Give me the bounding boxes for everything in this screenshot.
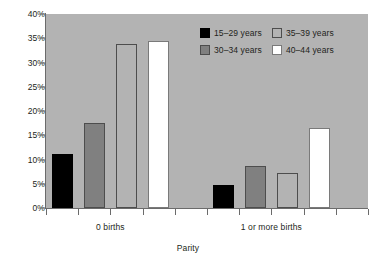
legend-label: 35–39 years xyxy=(286,28,334,38)
bar-chart: 0%5%10%15%20%25%30%35%40% 0 births1 or m… xyxy=(0,0,376,269)
bar xyxy=(245,166,266,208)
x-tick-mark xyxy=(368,209,369,215)
x-tick-mark xyxy=(336,209,337,215)
y-tick-mark xyxy=(40,86,45,87)
x-tick-mark xyxy=(143,209,144,215)
x-tick-mark xyxy=(46,209,47,215)
y-tick-mark xyxy=(40,62,45,63)
legend-swatch-icon xyxy=(272,28,282,38)
y-tick-mark xyxy=(40,38,45,39)
bar xyxy=(52,154,73,208)
y-tick-mark xyxy=(40,208,45,209)
y-tick-mark xyxy=(40,111,45,112)
legend-entry: 15–29 years xyxy=(200,28,262,38)
y-tick-label: 0% xyxy=(5,203,45,213)
y-tick-label: 15% xyxy=(5,130,45,140)
y-tick-mark xyxy=(40,183,45,184)
x-tick-mark xyxy=(207,209,208,215)
bar xyxy=(84,123,105,208)
legend-entry: 40–44 years xyxy=(272,45,334,55)
bar xyxy=(213,185,234,208)
x-tick-mark xyxy=(175,209,176,215)
legend-swatch-icon xyxy=(200,28,210,38)
legend-swatch-icon xyxy=(200,45,210,55)
x-tick-mark xyxy=(271,209,272,215)
y-tick-label: 10% xyxy=(5,155,45,165)
bar xyxy=(116,44,137,208)
legend-label: 40–44 years xyxy=(286,45,334,55)
y-tick-label: 35% xyxy=(5,33,45,43)
y-tick-label: 25% xyxy=(5,82,45,92)
bar xyxy=(277,173,298,208)
x-group-label: 1 or more births xyxy=(241,222,302,232)
y-tick-label: 20% xyxy=(5,106,45,116)
y-tick-mark xyxy=(40,14,45,15)
x-tick-mark xyxy=(304,209,305,215)
x-axis-title: Parity xyxy=(0,243,376,253)
legend-entry: 30–34 years xyxy=(200,45,262,55)
x-tick-mark xyxy=(239,209,240,215)
x-group-label: 0 births xyxy=(96,222,125,232)
bar xyxy=(148,41,169,208)
y-tick-label: 40% xyxy=(5,9,45,19)
legend-entry: 35–39 years xyxy=(272,28,334,38)
legend-swatch-icon xyxy=(272,45,282,55)
x-tick-mark xyxy=(78,209,79,215)
y-tick-mark xyxy=(40,159,45,160)
chart-legend: 15–29 years35–39 years30–34 years40–44 y… xyxy=(200,24,334,58)
bar xyxy=(309,128,330,209)
x-tick-mark xyxy=(110,209,111,215)
legend-label: 15–29 years xyxy=(214,28,262,38)
y-tick-label: 30% xyxy=(5,58,45,68)
y-tick-label: 5% xyxy=(5,179,45,189)
legend-label: 30–34 years xyxy=(214,45,262,55)
y-tick-mark xyxy=(40,135,45,136)
y-axis-labels: 0%5%10%15%20%25%30%35%40% xyxy=(0,0,45,269)
